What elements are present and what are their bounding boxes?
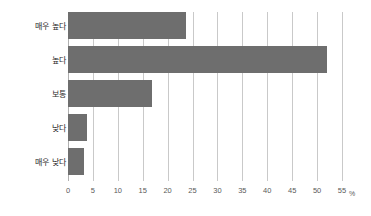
bar-chart: 매우 높다 높다 보통 낮다 매우 낮다 0510152025303540455… (0, 0, 371, 216)
bar-4 (68, 148, 84, 175)
x-tick-label-0: 0 (66, 186, 70, 195)
bar-1 (68, 46, 327, 73)
x-tick-label-50: 50 (313, 186, 321, 195)
x-tick-label-40: 40 (263, 186, 271, 195)
bar-2 (68, 80, 152, 107)
gridline-55 (342, 12, 343, 181)
bar-0 (68, 12, 186, 39)
x-tick-label-15: 15 (139, 186, 147, 195)
x-tick-label-5: 5 (91, 186, 95, 195)
x-axis-unit-label: % (349, 190, 355, 197)
plot-area (68, 12, 342, 181)
x-tick-label-10: 10 (114, 186, 122, 195)
x-tick-label-55: 55 (338, 186, 346, 195)
x-tick-label-30: 30 (213, 186, 221, 195)
category-label-0: 매우 높다 (6, 20, 66, 31)
bar-row (68, 80, 342, 107)
bar-row (68, 12, 342, 39)
x-tick-label-35: 35 (238, 186, 246, 195)
bar-row (68, 114, 342, 141)
bar-series (68, 12, 342, 181)
category-label-1: 높다 (6, 54, 66, 65)
bar-3 (68, 114, 87, 141)
x-tick-label-45: 45 (288, 186, 296, 195)
category-label-2: 보통 (6, 88, 66, 99)
x-tick-label-25: 25 (188, 186, 196, 195)
category-label-4: 매우 낮다 (6, 156, 66, 167)
x-tick-label-20: 20 (163, 186, 171, 195)
bar-row (68, 148, 342, 175)
bar-row (68, 46, 342, 73)
category-label-3: 낮다 (6, 122, 66, 133)
